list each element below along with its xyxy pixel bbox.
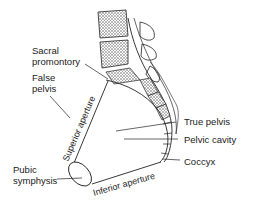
true-pelvis-label: True pelvis: [184, 116, 230, 127]
false-pelvis-label: False pelvis: [32, 72, 56, 94]
pubic-symphysis-label-line1: Pubic: [13, 164, 57, 175]
inferior-aperture-label: Inferior aperture: [92, 171, 156, 198]
pelvis-diagram: Superior aperture Inferior aperture Sacr…: [0, 0, 265, 202]
superior-aperture-label: Superior aperture: [61, 94, 98, 162]
sacral-promontory-label-line2: promontory: [32, 56, 80, 67]
pubic-symphysis-label: Pubic symphysis: [13, 164, 57, 186]
lumbar-vertebrae: [98, 10, 128, 68]
sacral-promontory-label-line1: Sacral: [32, 45, 80, 56]
pelvic-cavity-label: Pelvic cavity: [184, 134, 236, 145]
pubic-symphysis-label-line2: symphysis: [13, 175, 57, 186]
coccyx-label: Coccyx: [184, 156, 215, 167]
false-pelvis-label-line2: pelvis: [32, 83, 56, 94]
sacrum-anterior-curve: [106, 80, 168, 162]
sacral-promontory-label: Sacral promontory: [32, 45, 80, 67]
false-pelvis-label-line1: False: [32, 72, 56, 83]
